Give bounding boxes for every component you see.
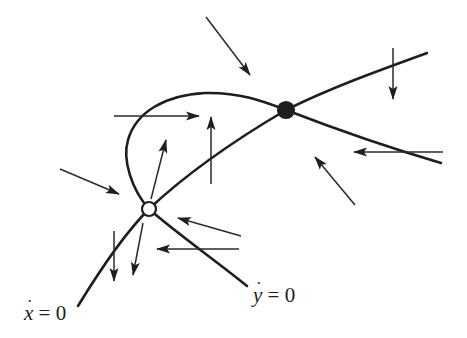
equals-zero: = 0	[262, 283, 295, 307]
arrow-top-center-icon	[206, 17, 250, 75]
arrow-below-node-upleft-icon	[178, 218, 241, 236]
arrow-left-diag-icon	[60, 169, 119, 194]
saddle-point	[278, 102, 294, 118]
nullclines	[78, 53, 441, 306]
time-derivative-dot: ˙	[27, 298, 33, 316]
arrow-node-up-icon	[151, 140, 166, 199]
arrow-right-upleft-icon	[315, 157, 355, 205]
x-dot-nullcline-label: ˙x = 0	[24, 303, 66, 324]
time-derivative-dot: ˙	[256, 280, 262, 298]
equals-zero: = 0	[33, 301, 66, 325]
phase-plane-diagram	[0, 0, 467, 338]
x-variable: ˙x	[24, 303, 33, 324]
y-dot-nullcline-label: ˙y = 0	[253, 285, 295, 306]
direction-field-arrows	[60, 17, 443, 281]
y-dot-nullcline	[126, 93, 441, 286]
arrow-lower-down-2-icon	[133, 223, 143, 275]
unstable-node	[142, 202, 156, 216]
y-variable: ˙y	[253, 285, 262, 306]
